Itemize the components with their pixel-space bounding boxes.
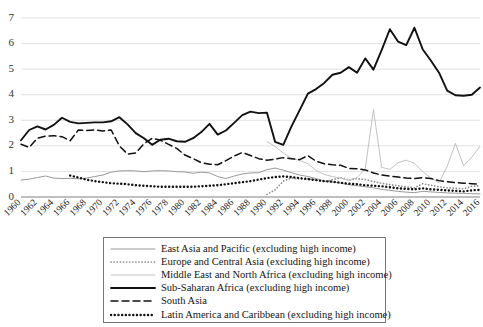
legend-item-4[interactable]: South Asia bbox=[110, 295, 379, 308]
legend-swatch-icon bbox=[110, 295, 156, 307]
legend-swatch-icon bbox=[110, 269, 156, 281]
legend-swatch-icon bbox=[110, 256, 156, 268]
legend-swatch-icon bbox=[110, 309, 156, 321]
x-tick-label-1996: 1996 bbox=[297, 197, 318, 218]
x-tick-label-1980: 1980 bbox=[166, 197, 187, 218]
series-line-1 bbox=[267, 178, 480, 195]
x-tick-label-1962: 1962 bbox=[18, 197, 39, 218]
legend-item-label: South Asia bbox=[161, 295, 207, 307]
x-tick-label-1964: 1964 bbox=[35, 197, 56, 218]
x-tick-label-2016: 2016 bbox=[461, 197, 482, 218]
series-layer bbox=[21, 28, 480, 195]
x-tick-label-1966: 1966 bbox=[51, 197, 72, 218]
x-tick-label-1982: 1982 bbox=[182, 197, 203, 218]
x-tick-label-1992: 1992 bbox=[264, 197, 285, 218]
legend-item-label: East Asia and Pacific (excluding high in… bbox=[161, 243, 356, 255]
y-tick-label-7: 7 bbox=[9, 11, 15, 23]
y-tick-label-6: 6 bbox=[9, 36, 15, 48]
x-tick-label-1988: 1988 bbox=[231, 197, 252, 218]
legend-item-1[interactable]: Europe and Central Asia (excluding high … bbox=[110, 255, 379, 268]
x-tick-label-1968: 1968 bbox=[67, 197, 88, 218]
legend-item-label: Sub-Saharan Africa (excluding high incom… bbox=[161, 282, 349, 294]
legend-item-5[interactable]: Latin America and Caribbean (excluding h… bbox=[110, 308, 379, 321]
legend-item-0[interactable]: East Asia and Pacific (excluding high in… bbox=[110, 242, 379, 255]
legend-item-label: Middle East and North Africa (excluding … bbox=[161, 269, 392, 281]
x-tick-label-2014: 2014 bbox=[445, 197, 466, 218]
chart-container: 01234567 1960196219641966196819701972197… bbox=[0, 0, 483, 327]
x-tick-label-1998: 1998 bbox=[313, 197, 334, 218]
chart-legend: East Asia and Pacific (excluding high in… bbox=[103, 237, 386, 323]
x-tick-label-1960: 1960 bbox=[2, 197, 23, 218]
x-tick-label-1978: 1978 bbox=[149, 197, 170, 218]
x-tick-label-2000: 2000 bbox=[330, 197, 351, 218]
x-tick-label-2008: 2008 bbox=[395, 197, 416, 218]
x-tick-label-2012: 2012 bbox=[428, 197, 449, 218]
x-tick-label-2004: 2004 bbox=[363, 197, 384, 218]
x-tick-label-1984: 1984 bbox=[199, 197, 220, 218]
x-tick-label-2006: 2006 bbox=[379, 197, 400, 218]
y-tick-label-2: 2 bbox=[9, 138, 15, 150]
x-tick-label-1974: 1974 bbox=[117, 197, 138, 218]
legend-item-label: Latin America and Caribbean (excluding h… bbox=[161, 309, 391, 321]
y-tick-label-4: 4 bbox=[9, 87, 15, 99]
x-tick-label-1976: 1976 bbox=[133, 197, 154, 218]
legend-item-3[interactable]: Sub-Saharan Africa (excluding high incom… bbox=[110, 282, 379, 295]
x-tick-label-2010: 2010 bbox=[412, 197, 433, 218]
x-tick-label-1990: 1990 bbox=[248, 197, 269, 218]
series-line-3 bbox=[21, 28, 480, 145]
legend-item-2[interactable]: Middle East and North Africa (excluding … bbox=[110, 268, 379, 281]
x-tick-label-1970: 1970 bbox=[84, 197, 105, 218]
series-line-4 bbox=[21, 130, 480, 184]
y-tick-label-5: 5 bbox=[9, 62, 15, 74]
x-axis-tick-labels: 1960196219641966196819701972197419761978… bbox=[2, 197, 482, 218]
legend-swatch-icon bbox=[110, 243, 156, 255]
y-tick-label-3: 3 bbox=[9, 113, 15, 125]
x-tick-label-1972: 1972 bbox=[100, 197, 121, 218]
legend-swatch-icon bbox=[110, 282, 156, 294]
gridlines bbox=[21, 18, 480, 197]
legend-item-label: Europe and Central Asia (excluding high … bbox=[161, 256, 370, 268]
x-tick-label-1986: 1986 bbox=[215, 197, 236, 218]
x-tick-label-2002: 2002 bbox=[346, 197, 367, 218]
x-tick-label-1994: 1994 bbox=[281, 197, 302, 218]
y-tick-label-1: 1 bbox=[9, 164, 15, 176]
y-axis-tick-labels: 01234567 bbox=[9, 11, 15, 202]
